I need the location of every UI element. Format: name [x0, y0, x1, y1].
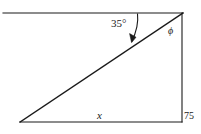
angle-of-elevation-label: 35°	[111, 18, 126, 29]
base-length-label: x	[97, 110, 102, 121]
hypotenuse-line	[20, 13, 183, 122]
phi-angle-label: ϕ	[168, 26, 173, 36]
vertical-side-length-label: 75	[184, 111, 194, 121]
geometry-figure: 35° ϕ x 75	[0, 0, 201, 134]
